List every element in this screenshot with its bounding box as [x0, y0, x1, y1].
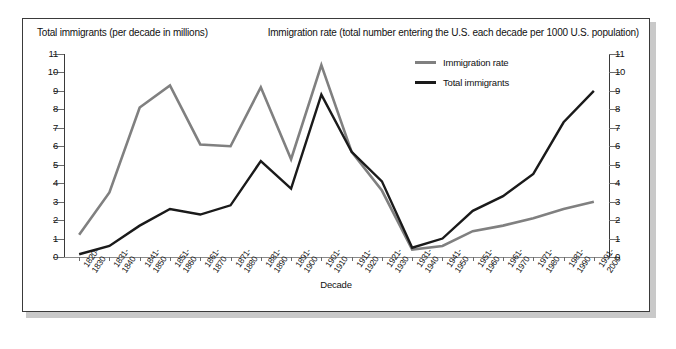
right-tick-label: 5 — [615, 160, 631, 169]
right-tick-label: 10 — [615, 67, 631, 76]
right-tick-label: 2 — [615, 215, 631, 224]
left-tick-label: 2 — [42, 215, 58, 224]
chart-page: Total immigrants (per decade in millions… — [0, 0, 676, 349]
left-tick-label: 9 — [42, 86, 58, 95]
right-tick-label: 4 — [615, 178, 631, 187]
x-axis-title: Decade — [23, 279, 649, 290]
chart-frame: Total immigrants (per decade in millions… — [22, 18, 650, 312]
legend-label: Immigration rate — [443, 57, 508, 68]
left-tick-label: 6 — [42, 141, 58, 150]
left-tick-label: 4 — [42, 178, 58, 187]
left-axis-title: Total immigrants (per decade in millions… — [37, 27, 208, 38]
right-tick-label: 6 — [615, 141, 631, 150]
chart-legend: Immigration rate Total immigrants — [415, 57, 509, 97]
left-tick-label: 8 — [42, 104, 58, 113]
series-line-total-immigrants — [79, 91, 594, 254]
left-tick-label: 1 — [42, 234, 58, 243]
left-tick-label: 10 — [42, 67, 58, 76]
left-tick-label: 11 — [42, 49, 58, 58]
left-tick-label: 7 — [42, 123, 58, 132]
legend-item-total-immigrants: Total immigrants — [415, 77, 509, 88]
plot-area: 01234567891011 01234567891011 1820-18301… — [64, 54, 609, 257]
legend-label: Total immigrants — [443, 77, 509, 88]
right-tick-label: 11 — [615, 49, 631, 58]
legend-swatch-icon — [415, 61, 436, 64]
right-tick-label: 3 — [615, 197, 631, 206]
left-tick-label: 5 — [42, 160, 58, 169]
right-tick-label: 1 — [615, 234, 631, 243]
right-axis-title: Immigration rate (total number entering … — [268, 27, 639, 38]
series-lines — [64, 54, 610, 258]
right-tick-label: 9 — [615, 86, 631, 95]
left-tick-label: 3 — [42, 197, 58, 206]
right-tick-label: 7 — [615, 123, 631, 132]
right-tick-label: 8 — [615, 104, 631, 113]
legend-item-immigration-rate: Immigration rate — [415, 57, 509, 68]
left-tick-label: 0 — [42, 252, 58, 261]
legend-swatch-icon — [415, 81, 436, 85]
series-line-immigration-rate — [79, 65, 594, 250]
